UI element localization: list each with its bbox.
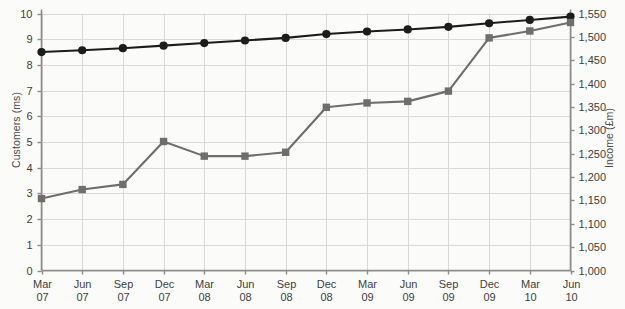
data-point-income <box>38 195 45 202</box>
data-point-income <box>404 98 411 105</box>
data-point-customers <box>444 23 452 31</box>
dual-axis-line-chart: Customers (ms) Income (£m) 0123456789101… <box>0 0 625 309</box>
left-axis-tick-label: 6 <box>0 111 33 122</box>
x-tick-month: Jun <box>224 278 268 291</box>
left-axis-tick-label: 0 <box>0 266 33 277</box>
left-axis-tick-label: 3 <box>0 188 33 199</box>
x-axis-tick-label: Mar10 <box>509 278 553 304</box>
x-axis-tick-label: Dec08 <box>305 278 349 304</box>
right-axis-tick-label: 1,400 <box>579 79 607 90</box>
right-axis-tick-label: 1,200 <box>579 172 607 183</box>
data-point-customers <box>526 16 534 24</box>
data-point-income <box>485 34 492 41</box>
x-axis-tick-label: Dec07 <box>143 278 187 304</box>
left-axis-tick-label: 9 <box>0 34 33 45</box>
x-tick-month: Sep <box>102 278 146 291</box>
data-point-income <box>282 149 289 156</box>
data-point-customers <box>282 34 290 42</box>
data-point-customers <box>37 48 45 56</box>
right-axis-tick-label: 1,350 <box>579 102 607 113</box>
x-tick-month: Mar <box>21 278 65 291</box>
x-tick-month: Mar <box>183 278 227 291</box>
x-tick-month: Sep <box>265 278 309 291</box>
x-tick-year: 09 <box>387 291 431 304</box>
data-point-income <box>363 99 370 106</box>
x-tick-year: 09 <box>346 291 390 304</box>
x-axis-tick-label: Mar09 <box>346 278 390 304</box>
x-axis-tick-label: Jun09 <box>387 278 431 304</box>
x-tick-year: 07 <box>21 291 65 304</box>
left-axis-tick-label: 10 <box>0 9 33 20</box>
right-axis-tick-label: 1,450 <box>579 55 607 66</box>
x-axis-tick-label: Sep08 <box>265 278 309 304</box>
right-axis-tick-label: 1,500 <box>579 32 607 43</box>
x-axis-tick-label: Jun10 <box>550 278 594 304</box>
data-point-customers <box>404 25 412 33</box>
x-tick-month: Dec <box>305 278 349 291</box>
x-tick-month: Jun <box>387 278 431 291</box>
x-axis-tick-label: Dec09 <box>468 278 512 304</box>
x-tick-month: Mar <box>346 278 390 291</box>
x-tick-year: 07 <box>102 291 146 304</box>
x-tick-year: 07 <box>143 291 187 304</box>
x-tick-year: 08 <box>224 291 268 304</box>
data-point-customers <box>485 19 493 27</box>
right-axis-tick-label: 1,250 <box>579 149 607 160</box>
x-axis-tick-label: Sep09 <box>427 278 471 304</box>
x-tick-year: 07 <box>61 291 105 304</box>
right-axis-tick-label: 1,050 <box>579 242 607 253</box>
plot-area <box>0 0 625 309</box>
data-point-income <box>78 186 85 193</box>
x-tick-year: 09 <box>427 291 471 304</box>
x-tick-month: Jun <box>61 278 105 291</box>
right-axis-tick-label: 1,550 <box>579 9 607 20</box>
data-point-customers <box>241 36 249 44</box>
x-tick-month: Mar <box>509 278 553 291</box>
data-point-customers <box>322 30 330 38</box>
x-tick-year: 10 <box>550 291 594 304</box>
data-point-customers <box>363 27 371 35</box>
x-tick-month: Sep <box>427 278 471 291</box>
x-tick-year: 10 <box>509 291 553 304</box>
left-axis-tick-label: 8 <box>0 60 33 71</box>
left-axis-tick-label: 2 <box>0 214 33 225</box>
data-point-income <box>119 181 126 188</box>
data-point-income <box>526 27 533 34</box>
data-point-customers <box>78 46 86 54</box>
data-point-customers <box>119 44 127 52</box>
right-axis-tick-label: 1,100 <box>579 219 607 230</box>
data-point-income <box>160 138 167 145</box>
left-axis-tick-label: 1 <box>0 240 33 251</box>
x-axis-tick-label: Mar08 <box>183 278 227 304</box>
x-tick-year: 08 <box>305 291 349 304</box>
x-tick-month: Dec <box>143 278 187 291</box>
data-point-income <box>241 152 248 159</box>
x-tick-year: 08 <box>183 291 227 304</box>
left-axis-tick-label: 7 <box>0 86 33 97</box>
x-tick-year: 09 <box>468 291 512 304</box>
x-axis-tick-label: Mar07 <box>21 278 65 304</box>
left-axis-tick-label: 4 <box>0 163 33 174</box>
x-axis-tick-label: Jun07 <box>61 278 105 304</box>
x-axis-tick-label: Sep07 <box>102 278 146 304</box>
data-point-customers <box>200 39 208 47</box>
data-point-income <box>567 19 574 26</box>
right-axis-tick-label: 1,300 <box>579 125 607 136</box>
data-point-income <box>201 152 208 159</box>
data-point-customers <box>159 42 167 50</box>
right-axis-tick-label: 1,000 <box>579 266 607 277</box>
data-point-income <box>323 104 330 111</box>
x-tick-month: Dec <box>468 278 512 291</box>
right-axis-tick-label: 1,150 <box>579 195 607 206</box>
x-tick-year: 08 <box>265 291 309 304</box>
left-axis-tick-label: 5 <box>0 137 33 148</box>
x-axis-tick-label: Jun08 <box>224 278 268 304</box>
data-point-income <box>445 87 452 94</box>
x-tick-month: Jun <box>550 278 594 291</box>
